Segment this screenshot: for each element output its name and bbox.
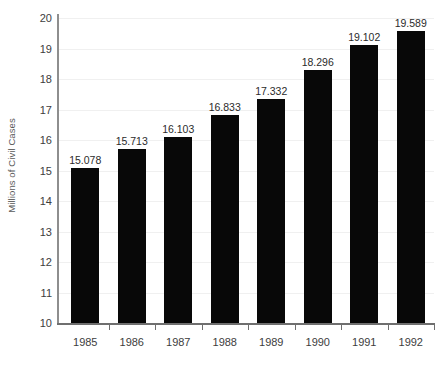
footnote-strip (0, 362, 442, 370)
bar (257, 99, 285, 323)
bar-value-label: 15.713 (116, 135, 148, 147)
x-axis-tick (248, 323, 249, 330)
y-axis-tick-label: 11 (6, 287, 52, 299)
bar (71, 168, 99, 323)
bar (211, 115, 239, 323)
y-axis-tick-label: 10 (6, 317, 52, 329)
x-axis-tick (109, 323, 110, 330)
bar (397, 31, 425, 323)
x-axis-tick (202, 323, 203, 330)
x-axis-tick (155, 323, 156, 330)
bar (164, 137, 192, 323)
x-axis-tick-label: 1989 (259, 336, 283, 348)
bar (304, 70, 332, 323)
y-axis-tick-label: 18 (6, 73, 52, 85)
bar (118, 149, 146, 323)
x-axis-tick (388, 323, 389, 330)
y-axis-tick-label: 12 (6, 256, 52, 268)
bar-chart: Millions of Civil Cases 2019181716151413… (0, 0, 442, 370)
x-axis-tick-label: 1985 (73, 336, 97, 348)
x-axis-tick (341, 323, 342, 330)
bar-value-label: 19.102 (348, 31, 380, 43)
y-axis-tick-label: 15 (6, 165, 52, 177)
bar-value-label: 16.833 (209, 101, 241, 113)
x-axis-tick-label: 1987 (166, 336, 190, 348)
x-axis-tick-label: 1988 (213, 336, 237, 348)
bar-value-label: 16.103 (162, 123, 194, 135)
x-axis-line (57, 323, 434, 325)
y-axis-tick-label: 17 (6, 104, 52, 116)
x-axis-tick (434, 323, 435, 330)
bar-value-label: 18.296 (302, 56, 334, 68)
gridline (58, 18, 434, 19)
y-axis-tick-label: 13 (6, 226, 52, 238)
bar-value-label: 17.332 (255, 85, 287, 97)
x-axis-tick (295, 323, 296, 330)
bar-value-label: 15.078 (69, 154, 101, 166)
bar (350, 45, 378, 323)
x-axis-tick-label: 1986 (120, 336, 144, 348)
bar-value-label: 19.589 (395, 17, 427, 29)
y-axis-line (57, 14, 59, 324)
x-axis-tick-label: 1990 (306, 336, 330, 348)
y-axis-tick-label: 16 (6, 134, 52, 146)
y-axis-tick-label: 20 (6, 12, 52, 24)
y-axis-tick-label: 14 (6, 195, 52, 207)
y-axis-tick-labels: 2019181716151413121110 (0, 0, 52, 370)
y-axis-tick-label: 19 (6, 43, 52, 55)
x-axis-tick-label: 1992 (399, 336, 423, 348)
x-axis-tick-label: 1991 (352, 336, 376, 348)
